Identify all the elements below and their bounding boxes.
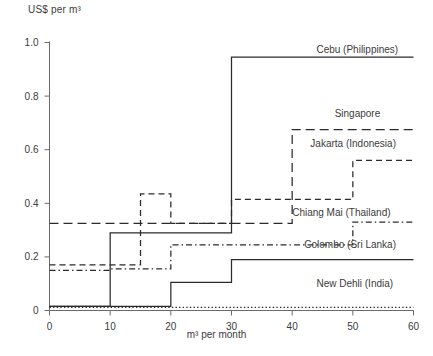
water-tariff-step-chart: US$ per m³ 00.20.40.60.81.00102030405060… [0, 0, 433, 356]
series-label-chiang-mai-thailand: Chiang Mai (Thailand) [292, 207, 390, 218]
series-label-colombo-sri-lanka: Colombo (Sri Lanka) [304, 239, 396, 250]
x-axis-title-text: m³ per month [187, 329, 246, 340]
series-label-singapore: Singapore [335, 108, 381, 119]
y-tick-label: 0.4 [25, 198, 39, 209]
y-tick-label: 1.0 [25, 37, 39, 48]
y-tick-label: 0 [33, 305, 39, 316]
series-label-cebu-philippines: Cebu (Philippines) [316, 44, 398, 55]
y-tick-label: 0.2 [25, 251, 39, 262]
series-label-jakarta-indonesia: Jakarta (Indonesia) [310, 138, 396, 149]
series-label-new-dehli-india: New Dehli (India) [316, 278, 393, 289]
x-axis-title: m³ per month [0, 329, 433, 340]
y-tick-label: 0.6 [25, 144, 39, 155]
plot-area: 00.20.40.60.81.00102030405060Cebu (Phili… [0, 0, 433, 356]
y-tick-label: 0.8 [25, 91, 39, 102]
